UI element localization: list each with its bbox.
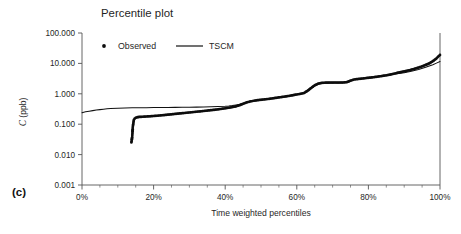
chart-title: Percentile plot (101, 7, 174, 19)
y-tick-label: 0.001 (55, 181, 76, 190)
y-axis-title: C (ppb) (18, 98, 28, 127)
x-axis-title: Time weighted percentiles (211, 208, 311, 218)
y-tick-label: 10.000 (50, 59, 75, 68)
x-tick-label: 60% (289, 193, 305, 202)
x-tick-label: 100% (430, 193, 451, 202)
y-tick-label: 100.000 (45, 29, 75, 38)
y-tick-label: 1.000 (55, 90, 76, 99)
chart-canvas: Percentile plot (c) C (ppb) Time weighte… (0, 0, 461, 234)
y-axis-title-units: (ppb) (18, 98, 28, 121)
svg-text:C (ppb): C (ppb) (18, 98, 28, 127)
legend-label-observed: Observed (118, 41, 156, 51)
y-tick-label: 0.010 (55, 151, 76, 160)
legend-label-tscm: TSCM (209, 41, 234, 51)
y-tick-label: 0.100 (55, 120, 76, 129)
x-tick-label: 20% (145, 193, 161, 202)
x-tick-label: 0% (76, 193, 88, 202)
data-point-observed (439, 54, 442, 57)
x-tick-label: 80% (360, 193, 376, 202)
panel-label: (c) (12, 186, 26, 198)
legend-dot-icon (102, 44, 106, 48)
percentile-plot-figure: Percentile plot (c) C (ppb) Time weighte… (0, 0, 461, 234)
x-tick-label: 40% (217, 193, 233, 202)
